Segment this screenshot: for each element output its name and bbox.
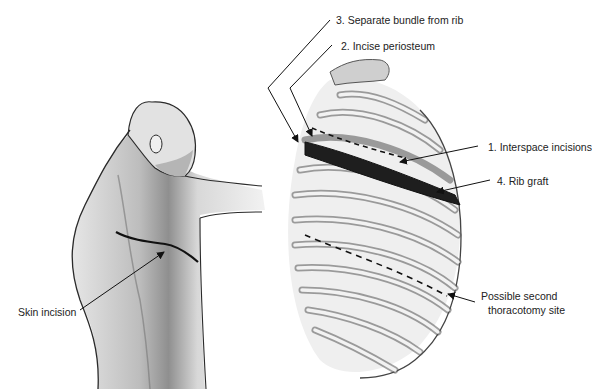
- label-second-thoracotomy-line1: Possible second: [481, 290, 557, 302]
- label-step3-separate-bundle: 3. Separate bundle from rib: [336, 14, 463, 26]
- patient-figure: [72, 102, 265, 389]
- label-step4-rib-graft: 4. Rib graft: [497, 175, 548, 187]
- rib-cage: [288, 60, 461, 379]
- label-step2-incise-periosteum: 2. Incise periosteum: [341, 40, 435, 52]
- label-step1-interspace-incisions: 1. Interspace incisions: [488, 141, 592, 153]
- label-second-thoracotomy-line2: thoracotomy site: [488, 304, 565, 316]
- label-skin-incision: Skin incision: [18, 306, 76, 318]
